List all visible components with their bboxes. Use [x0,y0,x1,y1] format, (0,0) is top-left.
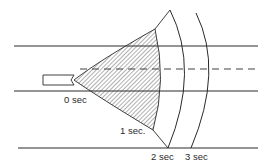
wavefront-2sec [168,10,185,148]
wavefront-3sec [191,13,209,148]
wavefront-diagram [0,0,272,167]
envelope-lower [153,130,168,148]
hatched-wavefront-1sec [74,29,161,130]
label-0-sec: 0 sec [64,95,87,105]
label-1-sec: 1 sec. [120,126,145,136]
label-3-sec: 3 sec [185,152,208,162]
envelope-upper [155,10,170,29]
source-nozzle [43,75,74,85]
label-2-sec: 2 sec [151,152,174,162]
